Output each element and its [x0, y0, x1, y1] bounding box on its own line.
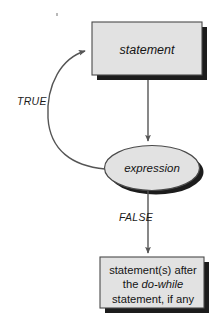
flowchart-canvas [0, 0, 221, 332]
scan-artifact-speck [56, 13, 58, 16]
false-edge-label: FALSE [119, 211, 153, 223]
expression-ellipse [105, 146, 200, 191]
true-edge-label: TRUE [17, 95, 47, 107]
after-box [100, 257, 204, 308]
flowchart-diagram: statement expression statement(s) after … [0, 0, 221, 332]
statement-box [92, 22, 202, 75]
